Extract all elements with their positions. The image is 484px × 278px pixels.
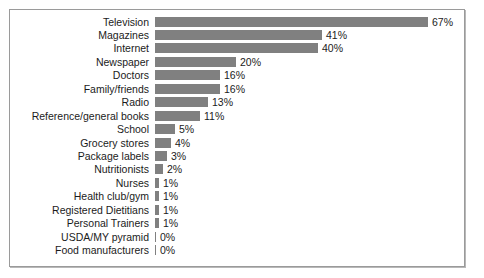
category-label: Family/friends (10, 83, 149, 96)
bar (155, 245, 156, 255)
bar-track: 0% (155, 244, 464, 257)
bar (155, 178, 159, 188)
category-label: Registered Dietitians (10, 204, 149, 217)
category-label: Personal Trainers (10, 217, 149, 230)
bar-track: 40% (155, 42, 464, 55)
bar-track: 1% (155, 217, 464, 230)
category-label: Health club/gym (10, 190, 149, 203)
category-label: Television (10, 16, 149, 29)
bar-row: Food manufacturers0% (10, 244, 464, 257)
bar-track: 67% (155, 16, 464, 29)
bar (155, 111, 200, 121)
bar-row: Package labels3% (10, 150, 464, 163)
bar (155, 138, 171, 148)
category-label: Internet (10, 42, 149, 55)
bar-row: Grocery stores4% (10, 137, 464, 150)
bar (155, 205, 159, 215)
bar-track: 41% (155, 29, 464, 42)
category-label: Radio (10, 96, 149, 109)
bar-value-label: 11% (204, 110, 224, 123)
bar-row: Registered Dietitians1% (10, 204, 464, 217)
category-label: Reference/general books (10, 110, 149, 123)
bar-row: Personal Trainers1% (10, 217, 464, 230)
bar (155, 191, 159, 201)
bar (155, 30, 322, 40)
bar (155, 232, 156, 242)
category-label: Food manufacturers (10, 244, 149, 257)
bar-value-label: 4% (175, 137, 190, 150)
bar-row: Reference/general books11% (10, 110, 464, 123)
bar-track: 0% (155, 231, 464, 244)
bar (155, 218, 159, 228)
category-label: Magazines (10, 29, 149, 42)
bar-value-label: 2% (167, 163, 182, 176)
bar-track: 4% (155, 137, 464, 150)
bar-value-label: 40% (322, 42, 343, 55)
bar-row: Internet40% (10, 42, 464, 55)
bar-track: 1% (155, 177, 464, 190)
bar (155, 84, 220, 94)
bar-track: 16% (155, 69, 464, 82)
bar-track: 13% (155, 96, 464, 109)
bar (155, 70, 220, 80)
bar-track: 3% (155, 150, 464, 163)
category-label: Grocery stores (10, 137, 149, 150)
bar-track: 1% (155, 204, 464, 217)
bar-value-label: 5% (179, 123, 194, 136)
bar-value-label: 1% (163, 177, 178, 190)
bar-row: Doctors16% (10, 69, 464, 82)
category-label: Doctors (10, 69, 149, 82)
category-label: USDA/MY pyramid (10, 231, 149, 244)
bar-row: Family/friends16% (10, 83, 464, 96)
bar-row: Nutritionists2% (10, 163, 464, 176)
bar-value-label: 16% (224, 83, 245, 96)
category-label: Nutritionists (10, 163, 149, 176)
bar-track: 16% (155, 83, 464, 96)
bar-row: Nurses1% (10, 177, 464, 190)
bar-value-label: 0% (160, 231, 175, 244)
bar (155, 164, 163, 174)
bar-value-label: 3% (171, 150, 186, 163)
bar-track: 20% (155, 56, 464, 69)
bar (155, 124, 175, 134)
bar-value-label: 41% (326, 29, 347, 42)
category-label: Nurses (10, 177, 149, 190)
bar-row: School5% (10, 123, 464, 136)
category-label: School (10, 123, 149, 136)
chart-frame: Television67%Magazines41%Internet40%News… (9, 9, 465, 267)
bar-value-label: 1% (163, 204, 178, 217)
bar-track: 2% (155, 163, 464, 176)
category-label: Newspaper (10, 56, 149, 69)
bar-row: Radio13% (10, 96, 464, 109)
category-label: Package labels (10, 150, 149, 163)
bar-row: Magazines41% (10, 29, 464, 42)
bar (155, 57, 236, 67)
plot-area: Television67%Magazines41%Internet40%News… (10, 10, 464, 266)
bar-value-label: 20% (240, 56, 261, 69)
bar (155, 17, 428, 27)
bar-row: Health club/gym1% (10, 190, 464, 203)
bar-value-label: 67% (432, 16, 453, 29)
bar-row: USDA/MY pyramid0% (10, 231, 464, 244)
bar-row: Newspaper20% (10, 56, 464, 69)
bar-value-label: 1% (163, 217, 178, 230)
bar-value-label: 16% (224, 69, 245, 82)
bar (155, 151, 167, 161)
bar-track: 1% (155, 190, 464, 203)
bar-value-label: 13% (212, 96, 233, 109)
bar-track: 5% (155, 123, 464, 136)
bar-value-label: 0% (160, 244, 175, 257)
bar (155, 97, 208, 107)
bar (155, 43, 318, 53)
bar-track: 11% (155, 110, 464, 123)
bar-value-label: 1% (163, 190, 178, 203)
bar-row: Television67% (10, 16, 464, 29)
